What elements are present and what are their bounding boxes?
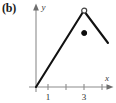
open-circle-point — [82, 8, 87, 13]
figure-panel-b: (b) y x 1 3 — [0, 0, 116, 103]
y-axis-arrow-icon — [33, 4, 39, 11]
x-tick-label-3: 3 — [82, 92, 87, 102]
x-axis-label: x — [104, 73, 109, 83]
x-axis-arrow-icon — [107, 84, 114, 90]
plot-area: y x 1 3 — [0, 0, 116, 103]
filled-dot-point — [82, 31, 87, 36]
rising-branch-line — [36, 12, 83, 87]
y-axis-label: y — [41, 2, 46, 12]
falling-branch-line — [86, 13, 109, 43]
x-tick-label-1: 1 — [46, 92, 51, 102]
